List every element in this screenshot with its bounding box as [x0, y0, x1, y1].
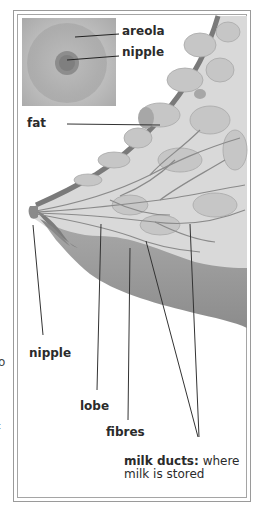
inset-areola-icon [27, 23, 107, 103]
label-nipple: nipple [29, 347, 71, 360]
label-nipple-inset: nipple [122, 46, 164, 59]
label-milk-ducts: milk ducts: where milk is stored [124, 455, 239, 481]
label-areola: areola [122, 25, 165, 38]
label-fibres: fibres [106, 426, 145, 439]
label-fat: fat [27, 117, 46, 130]
label-milk-ducts-desc-1: where [199, 454, 240, 468]
label-milk-ducts-desc-2: milk is stored [124, 467, 205, 481]
label-milk-ducts-term: milk ducts: [124, 454, 199, 468]
label-lobe: lobe [80, 400, 109, 413]
